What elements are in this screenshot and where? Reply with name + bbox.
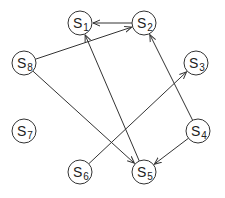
edge-s6-to-s3 bbox=[89, 72, 187, 164]
edge-s4-to-s5 bbox=[154, 138, 188, 164]
node-s7: S7 bbox=[12, 119, 36, 143]
node-s5: S5 bbox=[132, 160, 156, 184]
edge-s8-to-s5 bbox=[33, 71, 134, 163]
node-s1: S1 bbox=[68, 11, 92, 35]
node-s3: S3 bbox=[184, 51, 208, 75]
edges-layer bbox=[33, 23, 193, 164]
node-s6: S6 bbox=[68, 160, 92, 184]
node-s2: S2 bbox=[132, 11, 156, 35]
node-s8: S8 bbox=[12, 51, 36, 75]
nodes-layer: S1S2S3S4S5S6S7S8 bbox=[12, 11, 210, 184]
graph-diagram: S1S2S3S4S5S6S7S8 bbox=[0, 0, 225, 198]
edge-s4-to-s2 bbox=[150, 35, 193, 121]
node-s4: S4 bbox=[186, 119, 210, 143]
